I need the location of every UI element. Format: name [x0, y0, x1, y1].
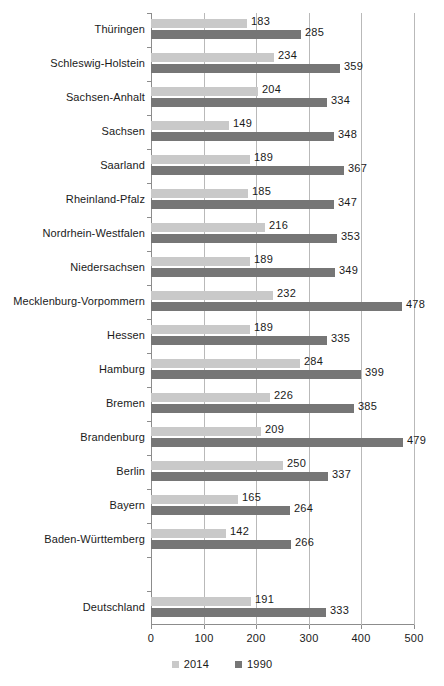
y-tick-15 [147, 523, 151, 524]
bar-2014 [151, 597, 251, 606]
category-label: Berlin [116, 465, 145, 477]
bar-1990 [151, 98, 327, 107]
bar-value-label: 189 [254, 321, 273, 333]
category-label: Sachsen [101, 125, 145, 137]
bar-value-label: 266 [295, 536, 314, 548]
y-tick-3 [147, 115, 151, 116]
legend-item-2014: 2014 [172, 658, 209, 670]
bar-2014 [151, 529, 226, 538]
bar-value-label: 189 [254, 151, 273, 163]
bar-value-label: 209 [265, 423, 284, 435]
y-tick-9 [147, 319, 151, 320]
y-tick-2 [147, 81, 151, 82]
bar-value-label: 333 [330, 604, 349, 616]
bar-value-label: 284 [304, 355, 323, 367]
x-tick-200 [256, 625, 257, 629]
bar-value-label: 149 [233, 117, 252, 129]
bar-1990 [151, 370, 361, 379]
bar-value-label: 335 [331, 332, 350, 344]
bar-value-label: 359 [344, 60, 363, 72]
bar-2014 [151, 257, 250, 266]
bar-1990 [151, 506, 290, 515]
bar-value-label: 191 [255, 593, 274, 605]
legend-item-1990: 1990 [235, 658, 272, 670]
bar-value-label: 250 [287, 457, 306, 469]
bar-value-label: 479 [407, 434, 426, 446]
bar-value-label: 334 [331, 94, 350, 106]
category-label: Mecklenburg-Vorpommern [13, 295, 145, 307]
bar-value-label: 478 [406, 298, 425, 310]
bar-2014 [151, 291, 273, 300]
y-tick-14 [147, 489, 151, 490]
x-tick-300 [309, 625, 310, 629]
legend-label-2014: 2014 [184, 658, 209, 670]
x-tick-label-400: 400 [341, 632, 381, 644]
bar-1990 [151, 268, 335, 277]
bar-1990 [151, 336, 327, 345]
bar-1990 [151, 64, 340, 73]
x-tick-100 [204, 625, 205, 629]
x-tick-label-300: 300 [289, 632, 329, 644]
bar-value-label: 216 [269, 219, 288, 231]
y-tick-12 [147, 421, 151, 422]
x-tick-400 [361, 625, 362, 629]
y-tick-16 [147, 557, 151, 558]
bar-2014 [151, 87, 258, 96]
y-tick-4 [147, 149, 151, 150]
bar-1990 [151, 30, 301, 39]
category-label: Hessen [107, 329, 145, 341]
y-tick-10 [147, 353, 151, 354]
bar-value-label: 234 [278, 49, 297, 61]
bar-value-label: 264 [294, 502, 313, 514]
y-tick-8 [147, 285, 151, 286]
y-tick-13 [147, 455, 151, 456]
category-label: Brandenburg [80, 431, 145, 443]
bar-1990 [151, 132, 334, 141]
legend-swatch-icon-1990 [235, 661, 242, 668]
gridline-400 [361, 13, 362, 625]
bar-value-label: 232 [277, 287, 296, 299]
bar-2014 [151, 393, 270, 402]
bar-value-label: 183 [251, 15, 270, 27]
bar-value-label: 347 [338, 196, 357, 208]
bar-1990 [151, 166, 344, 175]
bar-value-label: 226 [274, 389, 293, 401]
category-label: Niedersachsen [70, 261, 145, 273]
y-tick-7 [147, 251, 151, 252]
category-label: Hamburg [99, 363, 145, 375]
category-label: Bayern [110, 499, 145, 511]
category-label: Thüringen [95, 23, 145, 35]
bar-2014 [151, 121, 229, 130]
bar-value-label: 353 [341, 230, 360, 242]
category-label: Nordrhein-Westfalen [42, 227, 145, 239]
bar-1990 [151, 472, 328, 481]
bar-1990 [151, 302, 402, 311]
bar-value-label: 399 [365, 366, 384, 378]
bar-value-label: 367 [348, 162, 367, 174]
category-label: Bremen [106, 397, 145, 409]
x-tick-label-0: 0 [131, 632, 171, 644]
bar-1990 [151, 438, 403, 447]
bar-value-label: 285 [305, 26, 324, 38]
x-tick-label-100: 100 [184, 632, 224, 644]
y-tick-5 [147, 183, 151, 184]
bar-2014 [151, 325, 250, 334]
legend-swatch-icon-2014 [172, 661, 179, 668]
x-tick-label-200: 200 [236, 632, 276, 644]
bar-chart: 0100200300400500 ThüringenSchleswig-Hols… [0, 0, 444, 686]
x-tick-500 [414, 625, 415, 629]
bar-value-label: 204 [262, 83, 281, 95]
x-tick-0 [151, 625, 152, 629]
y-tick-17 [147, 591, 151, 592]
bar-value-label: 348 [338, 128, 357, 140]
bar-2014 [151, 359, 300, 368]
bar-value-label: 165 [242, 491, 261, 503]
bar-2014 [151, 223, 265, 232]
bar-2014 [151, 427, 261, 436]
category-label: Sachsen-Anhalt [66, 91, 145, 103]
category-label: Rheinland-Pfalz [66, 193, 145, 205]
bar-1990 [151, 540, 291, 549]
bar-value-label: 189 [254, 253, 273, 265]
bar-2014 [151, 155, 250, 164]
y-tick-6 [147, 217, 151, 218]
